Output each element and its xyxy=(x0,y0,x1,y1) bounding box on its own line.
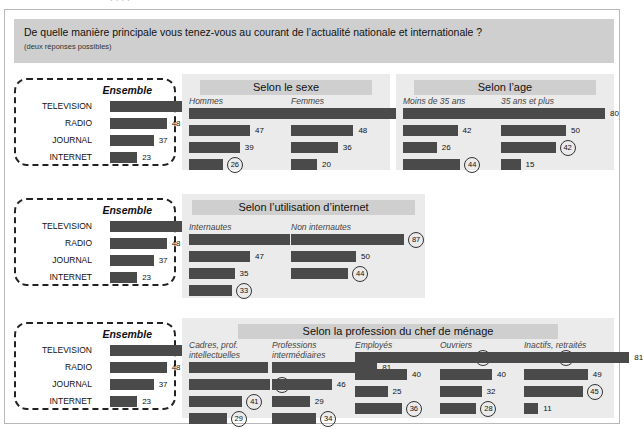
bar-value: 47 xyxy=(255,251,264,262)
group-label: Ouvriers xyxy=(440,340,472,350)
ensemble-box: EnsembleTELEVISION80RADIO48JOURNAL37INTE… xyxy=(14,78,176,166)
bar xyxy=(355,369,407,380)
group-label: Professions intermédiaires xyxy=(272,340,344,360)
bar xyxy=(501,159,521,170)
ensemble-row: INTERNET23 xyxy=(22,151,172,164)
bar xyxy=(272,413,316,424)
ensemble-bar-value: 48 xyxy=(172,362,181,373)
panel-title: Selon l’utilisation d’internet xyxy=(192,200,415,215)
ensemble-bar-value: 37 xyxy=(159,255,168,266)
bar-value-highlighted: 33 xyxy=(236,283,252,299)
ensemble-row: JOURNAL37 xyxy=(22,254,172,267)
bar xyxy=(291,159,317,170)
bar-value-highlighted: 36 xyxy=(406,401,422,417)
bar xyxy=(403,108,510,119)
group-label: Moins de 35 ans xyxy=(403,96,465,106)
bar-value: 48 xyxy=(358,125,367,136)
group-label: Employés xyxy=(355,340,392,350)
bar xyxy=(524,403,538,414)
bar xyxy=(189,413,227,424)
ensemble-bar xyxy=(110,379,154,390)
ensemble-row-label: JOURNAL xyxy=(12,378,92,391)
page-top-cutoff-text: · · · · xyxy=(0,0,626,8)
bar xyxy=(440,403,476,414)
group-label: Cadres, prof. intellectuelles xyxy=(189,340,261,360)
ensemble-row-label: TELEVISION xyxy=(12,344,92,357)
bar xyxy=(272,379,332,390)
bar-value-highlighted: 45 xyxy=(587,384,603,400)
ensemble-row: JOURNAL37 xyxy=(22,378,172,391)
ensemble-row: JOURNAL37 xyxy=(22,134,172,147)
panel-title: Selon l’age xyxy=(414,80,596,95)
bar xyxy=(189,379,270,390)
ensemble-row: RADIO48 xyxy=(22,361,172,374)
bar xyxy=(189,362,268,373)
ensemble-box: EnsembleTELEVISION80RADIO48JOURNAL37INTE… xyxy=(14,198,176,286)
ensemble-row-label: TELEVISION xyxy=(12,100,92,113)
bar-value: 39 xyxy=(245,142,254,153)
bar xyxy=(355,386,388,397)
group-label: Femmes xyxy=(291,96,324,106)
ensemble-title: Ensemble xyxy=(102,204,152,216)
ensemble-row-label: JOURNAL xyxy=(12,254,92,267)
ensemble-bar xyxy=(110,255,154,266)
bar xyxy=(291,268,348,279)
question-subtext: (deux réponses possibles) xyxy=(24,42,614,51)
bar xyxy=(189,285,232,296)
bar-value: 35 xyxy=(240,268,249,279)
ensemble-bar xyxy=(110,362,167,373)
bar-value-highlighted: 26 xyxy=(227,157,243,173)
bar xyxy=(291,125,353,136)
bar-value: 50 xyxy=(571,125,580,136)
bar xyxy=(440,369,492,380)
bar-value: 29 xyxy=(315,396,324,407)
bar-value: 49 xyxy=(593,369,602,380)
bar-value: 46 xyxy=(337,379,346,390)
bar-value: 32 xyxy=(487,386,496,397)
bar xyxy=(291,251,356,262)
ensemble-row-label: INTERNET xyxy=(12,151,92,164)
ensemble-bar-value: 23 xyxy=(142,272,151,283)
ensemble-bar xyxy=(110,272,137,283)
bar-value: 47 xyxy=(255,125,264,136)
group-label: Hommes xyxy=(189,96,223,106)
bar xyxy=(403,159,460,170)
group-label: 35 ans et plus xyxy=(501,96,554,106)
bar xyxy=(272,396,310,407)
bar-value: 42 xyxy=(463,125,472,136)
ensemble-row-label: RADIO xyxy=(12,237,92,250)
bar xyxy=(189,234,290,245)
bar xyxy=(501,108,605,119)
bar xyxy=(189,159,223,170)
bar-value: 50 xyxy=(361,251,370,262)
bar xyxy=(189,251,250,262)
bar-value: 36 xyxy=(343,142,352,153)
ensemble-bar-value: 48 xyxy=(172,118,181,129)
bar xyxy=(291,142,338,153)
bar xyxy=(189,125,250,136)
ensemble-bar xyxy=(110,396,137,407)
bar-value: 15 xyxy=(526,159,535,170)
bar xyxy=(189,396,242,407)
ensemble-bar-value: 37 xyxy=(159,379,168,390)
cutoff-text: · · · · xyxy=(110,0,626,5)
ensemble-row: TELEVISION80 xyxy=(22,344,172,357)
ensemble-row-label: TELEVISION xyxy=(12,220,92,233)
group-label: Internautes xyxy=(189,222,232,232)
bar xyxy=(403,125,458,136)
ensemble-row: RADIO48 xyxy=(22,237,172,250)
bar-value-highlighted: 29 xyxy=(231,411,247,427)
bar xyxy=(189,142,240,153)
ensemble-bar-value: 37 xyxy=(159,135,168,146)
ensemble-row: TELEVISION80 xyxy=(22,220,172,233)
bar-value: 40 xyxy=(497,369,506,380)
bar xyxy=(291,234,404,245)
bar-value: 81 xyxy=(634,352,643,363)
bar-value: 11 xyxy=(543,403,551,414)
ensemble-row: RADIO48 xyxy=(22,117,172,130)
bar xyxy=(291,108,396,119)
bar-value: 80 xyxy=(610,108,619,119)
ensemble-row-label: RADIO xyxy=(12,117,92,130)
ensemble-bar xyxy=(110,118,167,129)
ensemble-box: EnsembleTELEVISION80RADIO48JOURNAL37INTE… xyxy=(14,322,176,410)
